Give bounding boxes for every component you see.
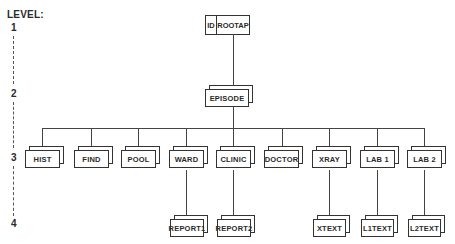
- connector-lab2-l2text: [424, 170, 425, 215]
- level-axis-dash: [13, 102, 14, 148]
- segment-lab2: LAB 2: [407, 150, 442, 168]
- level-2-label: 2: [11, 88, 17, 99]
- level-1-label: 1: [11, 22, 17, 33]
- segment-label: HIST: [25, 150, 60, 168]
- connector-lab1-l1text: [377, 170, 378, 215]
- connector-ward-report1: [186, 170, 187, 215]
- root-segment-rootap: ID ROOTAP: [205, 15, 250, 35]
- connector-clinic-report2: [233, 170, 234, 215]
- segment-episode: EPISODE: [205, 89, 249, 107]
- level-axis-dash: [13, 36, 14, 84]
- root-name: ROOTAP: [217, 16, 249, 34]
- segment-label: LAB 2: [407, 150, 442, 168]
- connector-find: [91, 128, 92, 148]
- level-4-label: 4: [11, 218, 17, 229]
- segment-report1: REPORT1: [170, 219, 204, 237]
- connector-hist: [42, 128, 43, 148]
- segment-label: WARD: [169, 150, 204, 168]
- segment-label: CLINIC: [216, 150, 251, 168]
- segment-clinic: CLINIC: [216, 150, 251, 168]
- segment-label: XRAY: [312, 150, 347, 168]
- segment-doctor: DOCTOR: [264, 150, 299, 168]
- segment-label: REPORT2: [217, 219, 251, 237]
- connector-lab1: [377, 128, 378, 148]
- connector-ward: [186, 128, 187, 148]
- connector-root-episode: [233, 34, 234, 85]
- segment-find: FIND: [74, 150, 109, 168]
- level-axis-title: LEVEL:: [7, 9, 44, 20]
- segment-label: POOL: [121, 150, 156, 168]
- connector-xray: [329, 128, 330, 148]
- segment-hist: HIST: [25, 150, 60, 168]
- segment-l1text: L1TEXT: [361, 219, 394, 237]
- segment-label: REPORT1: [170, 219, 204, 237]
- segment-report2: REPORT2: [217, 219, 251, 237]
- connector-lab2: [424, 128, 425, 148]
- segment-l2text: L2TEXT: [408, 219, 441, 237]
- segment-lab1: LAB 1: [360, 150, 395, 168]
- root-id-field: ID: [206, 16, 217, 34]
- connector-xray-xtext: [329, 170, 330, 215]
- segment-ward: WARD: [169, 150, 204, 168]
- segment-label: FIND: [74, 150, 109, 168]
- segment-label: XTEXT: [313, 219, 346, 237]
- segment-label: L2TEXT: [408, 219, 441, 237]
- level-axis-dash: [13, 166, 14, 216]
- segment-label: L1TEXT: [361, 219, 394, 237]
- segment-label: DOCTOR: [264, 150, 299, 168]
- level-3-label: 3: [11, 152, 17, 163]
- segment-label: LAB 1: [360, 150, 395, 168]
- connector-episode-bus: [233, 107, 234, 128]
- segment-xray: XRAY: [312, 150, 347, 168]
- segment-label: EPISODE: [205, 89, 249, 107]
- segment-xtext: XTEXT: [313, 219, 346, 237]
- connector-doctor: [282, 128, 283, 148]
- segment-pool: POOL: [121, 150, 156, 168]
- connector-clinic: [233, 128, 234, 148]
- connector-pool: [138, 128, 139, 148]
